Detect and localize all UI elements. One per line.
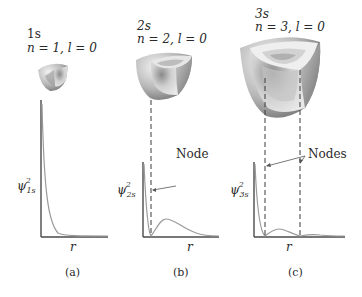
node-pointer-c1 xyxy=(267,156,305,166)
curve-2s xyxy=(144,164,219,236)
node-label-3s: Nodes xyxy=(308,148,347,161)
y-axis-label-3s: ψ3s2 xyxy=(230,180,254,201)
y-axis-label-1s: ψ1s2 xyxy=(17,176,41,197)
caption-b: (b) xyxy=(173,266,189,279)
y-axis-label-2s: ψ2s2 xyxy=(117,180,141,201)
quantum-numbers-1s: n = 1, l = 0 xyxy=(27,42,97,55)
arrowhead-icon xyxy=(266,163,271,167)
caption-c: (c) xyxy=(288,266,303,279)
x-axis-label-2s: r xyxy=(187,241,193,254)
caption-a: (a) xyxy=(65,266,80,279)
x-axis-label-1s: r xyxy=(70,241,76,254)
orbital-2s-cutaway-sphere xyxy=(136,53,192,100)
x-axis-label-3s: r xyxy=(286,241,292,254)
curve-1s xyxy=(42,104,108,236)
quantum-numbers-2s: n = 2, l = 0 xyxy=(137,33,207,46)
orbital-name-1s: 1s xyxy=(27,28,41,41)
quantum-numbers-3s: n = 3, l = 0 xyxy=(255,21,325,34)
plot-a xyxy=(41,100,108,237)
plot-b xyxy=(143,100,219,237)
orbital-1s-cutaway-sphere xyxy=(38,64,68,91)
orbital-3s-cutaway-sphere xyxy=(240,37,320,118)
arrowhead-icon xyxy=(152,188,156,192)
node-pointer-b xyxy=(153,186,176,190)
node-label-2s: Node xyxy=(176,148,209,161)
